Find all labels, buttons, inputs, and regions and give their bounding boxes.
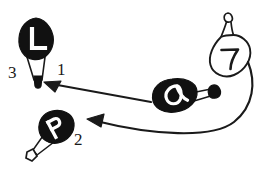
vessel-l-funnel-tip [34,76,42,88]
step-label-1: 1 [57,60,66,79]
step-label-2: 2 [74,130,83,149]
vessel-l-body [19,18,53,60]
figure-canvas: 1 2 3 [0,0,264,170]
vessel-alpha-cap [208,85,220,98]
diagram-svg: 1 2 3 [0,0,264,170]
vessel-seven-cap [224,13,232,22]
step-label-3: 3 [8,63,17,82]
